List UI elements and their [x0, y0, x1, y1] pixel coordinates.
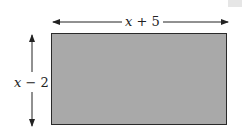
width-constant: 5: [152, 14, 160, 29]
height-label: x − 2: [14, 74, 49, 92]
width-variable: x: [125, 14, 132, 29]
height-constant: 2: [41, 75, 49, 90]
width-label: x + 5: [122, 15, 163, 29]
shaded-rectangle: [51, 33, 227, 125]
height-variable: x: [14, 75, 21, 90]
width-operator: +: [136, 14, 147, 29]
height-operator: −: [25, 75, 36, 90]
